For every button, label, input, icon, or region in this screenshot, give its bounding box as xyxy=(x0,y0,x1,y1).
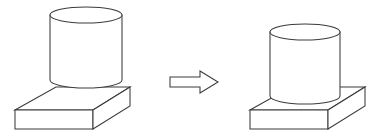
arrow-right-icon xyxy=(170,71,218,93)
cylinder-before-body xyxy=(50,15,122,88)
slab-before-front-face xyxy=(15,110,93,129)
illustration-canvas: Cylinder placed on rectangular slab Two-… xyxy=(0,0,375,139)
slab-after-front-face xyxy=(250,110,328,129)
line-drawing-svg xyxy=(0,0,375,139)
cylinder-before-top-ellipse xyxy=(50,7,122,23)
cylinder-after-body xyxy=(270,32,340,104)
cylinder-after xyxy=(270,24,340,104)
panel-after xyxy=(250,24,365,129)
cylinder-after-top-ellipse xyxy=(270,24,340,40)
slab-before xyxy=(15,87,130,129)
panel-before xyxy=(15,7,130,129)
cylinder-before xyxy=(50,7,122,88)
transition-arrow xyxy=(170,71,218,93)
